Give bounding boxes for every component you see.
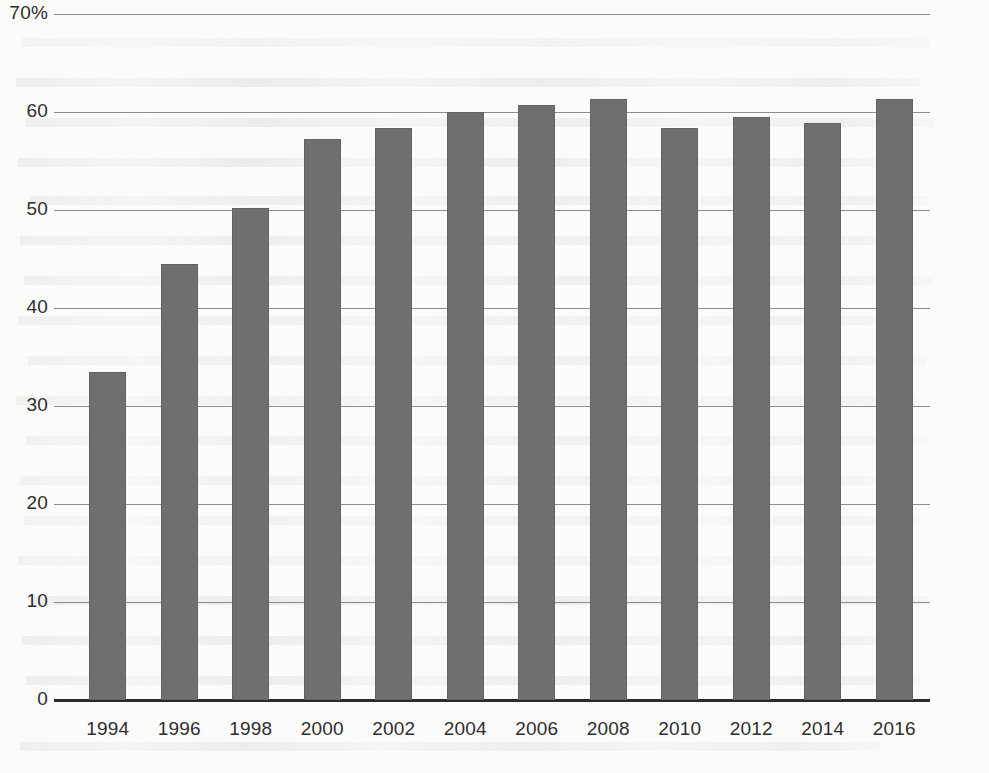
bar-2014	[804, 123, 841, 700]
bar-2002	[375, 128, 412, 700]
x-tick-label-2004: 2004	[425, 718, 505, 740]
gridline-y-50	[72, 210, 930, 211]
bar-1994	[89, 372, 126, 700]
y-tick-label-30: 30	[26, 394, 48, 416]
x-tick-label-2010: 2010	[640, 718, 720, 740]
plot-area	[72, 14, 930, 700]
gridline-y-10	[72, 602, 930, 603]
y-tick-label-60: 60	[26, 100, 48, 122]
gridline-y-40	[72, 308, 930, 309]
y-tick-label-70: 70%	[9, 2, 48, 24]
x-tick-label-2014: 2014	[783, 718, 863, 740]
gridline-y-20	[72, 504, 930, 505]
x-tick-label-2012: 2012	[711, 718, 791, 740]
y-tick-mark-40	[54, 308, 72, 309]
x-tick-label-2008: 2008	[568, 718, 648, 740]
y-tick-mark-70	[54, 14, 72, 15]
x-tick-label-2000: 2000	[282, 718, 362, 740]
y-tick-label-20: 20	[26, 492, 48, 514]
bar-1998	[232, 208, 269, 700]
y-tick-mark-10	[54, 602, 72, 603]
bar-1996	[161, 264, 198, 700]
x-tick-label-2016: 2016	[854, 718, 934, 740]
y-tick-label-40: 40	[26, 296, 48, 318]
y-tick-mark-30	[54, 406, 72, 407]
bar-2012	[733, 117, 770, 700]
x-axis-baseline	[72, 699, 930, 702]
y-tick-mark-60	[54, 112, 72, 113]
y-tick-label-50: 50	[26, 198, 48, 220]
x-tick-label-1994: 1994	[68, 718, 148, 740]
bar-2008	[590, 99, 627, 700]
bar-2016	[876, 99, 913, 700]
bar-chart: 010203040506070% 19941996199820002002200…	[0, 0, 989, 773]
bar-2010	[661, 128, 698, 700]
bar-2004	[447, 112, 484, 700]
gridline-y-70	[72, 14, 930, 15]
x-tick-label-1998: 1998	[211, 718, 291, 740]
y-tick-label-10: 10	[26, 590, 48, 612]
x-tick-label-1996: 1996	[139, 718, 219, 740]
y-tick-mark-0	[54, 699, 72, 702]
gridline-y-30	[72, 406, 930, 407]
y-tick-mark-20	[54, 504, 72, 505]
x-tick-label-2002: 2002	[354, 718, 434, 740]
gridline-y-60	[72, 112, 930, 113]
x-tick-label-2006: 2006	[497, 718, 577, 740]
bar-2000	[304, 139, 341, 700]
y-tick-mark-50	[54, 210, 72, 211]
y-tick-label-0: 0	[37, 688, 48, 710]
bar-2006	[518, 105, 555, 700]
